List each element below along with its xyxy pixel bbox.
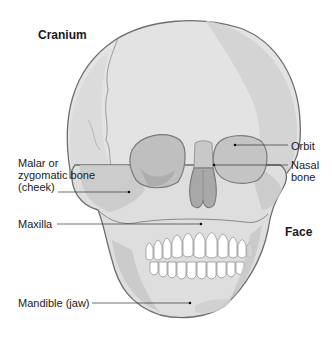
- mandible-dot: [189, 302, 192, 305]
- label-orbit: Orbit: [291, 140, 315, 152]
- nasal-dot: [213, 164, 216, 167]
- orbit-dot: [234, 144, 237, 147]
- region-label-cranium: Cranium: [38, 29, 87, 41]
- malar-dot: [128, 191, 131, 194]
- label-nasal-bone: Nasal bone: [291, 159, 319, 183]
- maxilla-dot: [200, 223, 203, 226]
- region-label-face: Face: [285, 226, 312, 238]
- label-maxilla: Maxilla: [18, 218, 52, 230]
- lower-teeth: [150, 262, 244, 279]
- label-malar-zygomatic-bone: Malar or zygomatic bone (cheek): [18, 157, 95, 193]
- right-orbit: [213, 136, 267, 184]
- label-mandible: Mandible (jaw): [18, 297, 90, 309]
